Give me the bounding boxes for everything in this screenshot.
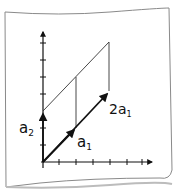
vector-diagram: a2 a1 2a1 <box>0 0 176 194</box>
paper-sheet <box>5 8 172 188</box>
